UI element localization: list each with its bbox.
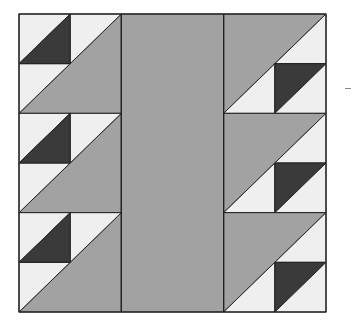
center-gray-strip <box>121 14 223 312</box>
edge-tick-mark <box>345 88 351 89</box>
quilt-block-diagram <box>0 0 352 336</box>
